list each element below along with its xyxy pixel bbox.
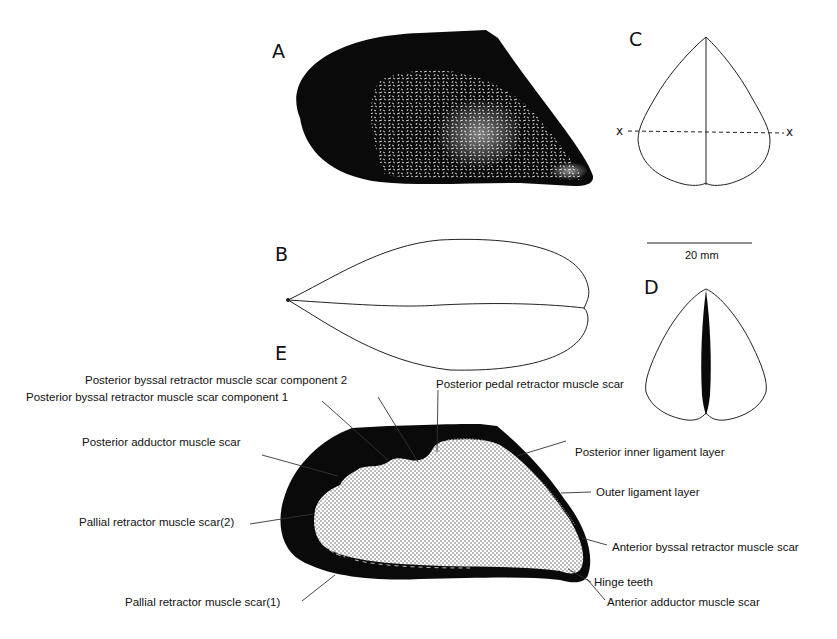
shell-posterior-outline <box>646 289 767 420</box>
label-pallial-retractor-1: Pallial retractor muscle scar(1) <box>125 597 280 609</box>
label-posterior-adductor: Posterior adductor muscle scar <box>82 437 241 449</box>
section-marker-right: x <box>786 126 793 138</box>
label-hinge-teeth: Hinge teeth <box>594 577 653 589</box>
label-posterior-inner-ligament: Posterior inner ligament layer <box>575 447 725 459</box>
label-anterior-byssal-retractor: Anterior byssal retractor muscle scar <box>612 542 799 554</box>
section-marker-left: x <box>616 125 623 137</box>
label-posterior-byssal-retractor-1: Posterior byssal retractor muscle scar c… <box>26 392 288 404</box>
scale-bar-label: 20 mm <box>685 250 719 261</box>
label-posterior-byssal-retractor-2: Posterior byssal retractor muscle scar c… <box>85 375 347 387</box>
panel-label-d: D <box>644 278 659 297</box>
panel-label-e: E <box>275 344 287 363</box>
panel-label-c: C <box>629 30 642 49</box>
shell-anterior-outline <box>628 37 784 185</box>
panel-label-a: A <box>272 42 285 61</box>
label-posterior-pedal-retractor: Posterior pedal retractor muscle scar <box>436 379 624 391</box>
label-pallial-retractor-2: Pallial retractor muscle scar(2) <box>79 517 234 529</box>
panel-label-b: B <box>275 245 288 264</box>
shell-dorsal-outline <box>287 239 589 370</box>
label-anterior-adductor: Anterior adductor muscle scar <box>607 597 760 609</box>
label-outer-ligament: Outer ligament layer <box>596 487 700 499</box>
shell-lateral-photo <box>296 30 593 186</box>
